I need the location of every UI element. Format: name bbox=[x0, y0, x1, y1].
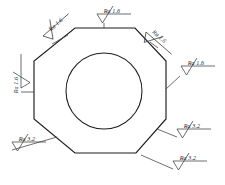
leader-line bbox=[157, 129, 177, 137]
drawing-svg: · · · · · · · · · · Ra 1.6Ra 1.6Ra 1.6Ra… bbox=[0, 0, 225, 185]
symbol-vee bbox=[97, 14, 108, 23]
technical-drawing-canvas: · · · · · · · · · · Ra 1.6Ra 1.6Ra 1.6Ra… bbox=[0, 0, 225, 185]
roughness-value-label: Ra 1.6 bbox=[47, 16, 65, 33]
callout-bottom-right-upper[interactable]: Ra 3.2 bbox=[157, 121, 211, 138]
callout-top-center[interactable]: Ra 1.6 bbox=[97, 6, 131, 28]
leader-line bbox=[166, 76, 180, 89]
watermark-text: · · · · · · · · · · bbox=[16, 2, 72, 8]
roughness-value-label: Ra 3.2 bbox=[179, 155, 197, 161]
symbol-riser bbox=[13, 72, 21, 77]
callout-left[interactable]: Ra 1.6 bbox=[13, 54, 34, 94]
roughness-value-label: Ra 1.6 bbox=[103, 8, 121, 14]
callout-right[interactable]: Ra 1.6 bbox=[166, 58, 215, 89]
leader-line bbox=[141, 155, 173, 169]
symbol-vee bbox=[21, 77, 30, 88]
callout-bottom-left[interactable]: Ra 3.2 bbox=[12, 134, 57, 151]
roughness-value-label: Ra 3.2 bbox=[18, 136, 36, 142]
symbol-vee bbox=[173, 161, 184, 170]
roughness-value-label: Ra 1.6 bbox=[13, 76, 19, 94]
roughness-value-label: Ra 1.6 bbox=[150, 28, 168, 45]
central-bore-circle bbox=[66, 53, 142, 129]
roughness-value-label: Ra 1.6 bbox=[187, 60, 205, 66]
symbol-vee bbox=[181, 66, 192, 75]
roughness-value-label: Ra 3.2 bbox=[183, 123, 201, 129]
callout-bottom-right-lower[interactable]: Ra 3.2 bbox=[141, 153, 207, 170]
symbol-vee bbox=[177, 129, 188, 138]
